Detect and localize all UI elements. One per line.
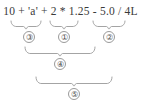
step-badge-3: ③ xyxy=(23,31,35,43)
brace-group-5 xyxy=(36,77,112,86)
brace-group-1 xyxy=(50,21,78,29)
step-badge-5: ⑤ xyxy=(68,88,80,100)
brace-group-2 xyxy=(93,21,125,29)
brace-group-4 xyxy=(25,47,95,56)
step-badge-1: ① xyxy=(58,31,70,43)
step-badge-2: ② xyxy=(103,31,115,43)
expression-evaluation-diagram: 10 + 'a' + 2 * 1.25 - 5.0 / 4L ③ ① ② ④ ⑤ xyxy=(0,0,141,105)
expression-line: 10 + 'a' + 2 * 1.25 - 5.0 / 4L xyxy=(0,4,141,18)
step-badge-4: ④ xyxy=(54,58,66,70)
brace-group-3 xyxy=(11,21,41,29)
